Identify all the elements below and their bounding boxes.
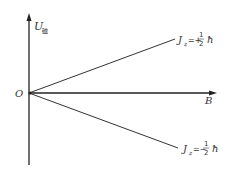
origin-point xyxy=(28,91,31,94)
svg-text:J: J xyxy=(181,143,188,154)
origin-label: O xyxy=(15,88,23,99)
energy-splitting-diagram: U 磁 O B J z =+ 1 2 ħ J z =− 1 2 ħ xyxy=(0,0,229,182)
svg-text:2: 2 xyxy=(199,40,203,48)
svg-text:ħ: ħ xyxy=(212,143,218,154)
lower-line-label: J z =− 1 2 ħ xyxy=(181,140,218,157)
upper-line-label: J z =+ 1 2 ħ xyxy=(176,31,213,48)
svg-text:2: 2 xyxy=(204,149,208,157)
y-axis-subscript: 磁 xyxy=(42,27,48,35)
svg-text:ħ: ħ xyxy=(207,34,213,45)
y-axis-arrow-icon xyxy=(27,13,32,21)
upper-energy-line xyxy=(29,39,175,93)
svg-text:1: 1 xyxy=(204,140,208,148)
lower-energy-line xyxy=(29,93,178,148)
svg-text:J: J xyxy=(176,34,183,45)
x-axis-label: B xyxy=(204,95,212,106)
svg-text:1: 1 xyxy=(199,31,203,39)
